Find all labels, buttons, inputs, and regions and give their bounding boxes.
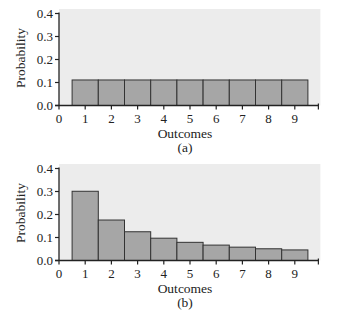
x-tick-label: 4 [161, 266, 168, 281]
y-tick-label: 0.0 [37, 98, 53, 113]
x-tick-label: 3 [134, 266, 141, 281]
x-tick-label: 9 [292, 111, 299, 126]
chart-panel-b: 0.00.10.20.30.40123456789Outcomes(b)Prob… [13, 161, 320, 310]
x-tick-label: 1 [82, 111, 89, 126]
bar-5 [177, 80, 203, 106]
bar-8 [256, 80, 282, 106]
x-tick-label: 0 [56, 266, 63, 281]
x-tick-label: 1 [82, 266, 89, 281]
x-tick-label: 8 [265, 266, 272, 281]
bar-3 [125, 232, 151, 261]
bar-1 [72, 191, 98, 260]
bar-2 [98, 220, 124, 260]
y-axis-label: Probability [13, 183, 28, 243]
x-tick-label: 2 [108, 266, 115, 281]
y-tick-label: 0.1 [37, 230, 53, 245]
bar-3 [125, 80, 151, 106]
bar-9 [282, 80, 308, 106]
y-axis-label: Probability [13, 28, 28, 88]
y-tick-label: 0.1 [37, 75, 53, 90]
bar-6 [203, 245, 229, 260]
x-tick-label: 4 [161, 111, 168, 126]
x-tick-label: 9 [292, 266, 299, 281]
bar-5 [177, 242, 203, 260]
x-tick-label: 6 [213, 266, 220, 281]
bar-1 [72, 80, 98, 106]
bar-6 [203, 80, 229, 106]
y-tick-label: 0.3 [37, 184, 53, 199]
x-tick-label: 0 [56, 111, 63, 126]
y-tick-label: 0.4 [37, 161, 54, 176]
x-tick-label: 3 [134, 111, 141, 126]
x-tick-label: 5 [187, 266, 194, 281]
bar-9 [282, 250, 308, 261]
x-axis-label: Outcomes [158, 281, 213, 296]
panel-label: (b) [177, 295, 193, 310]
x-tick-label: 6 [213, 111, 220, 126]
bar-2 [98, 80, 124, 106]
chart-panel-a: 0.00.10.20.30.40123456789Outcomes(a)Prob… [13, 6, 320, 155]
bar-4 [151, 238, 177, 260]
y-tick-label: 0.3 [37, 29, 53, 44]
y-tick-label: 0.4 [37, 6, 54, 21]
bar-7 [229, 247, 255, 260]
y-tick-label: 0.2 [37, 52, 53, 67]
benford-figure: 0.00.10.20.30.40123456789Outcomes(a)Prob… [0, 0, 338, 320]
x-tick-label: 8 [265, 111, 272, 126]
bar-7 [229, 80, 255, 106]
bar-4 [151, 80, 177, 106]
y-tick-label: 0.2 [37, 207, 53, 222]
bar-8 [256, 249, 282, 261]
panel-label: (a) [178, 140, 193, 155]
x-axis-label: Outcomes [158, 126, 213, 141]
x-tick-label: 7 [239, 111, 246, 126]
x-tick-label: 5 [187, 111, 194, 126]
y-tick-label: 0.0 [37, 253, 53, 268]
x-tick-label: 7 [239, 266, 246, 281]
x-tick-label: 2 [108, 111, 115, 126]
